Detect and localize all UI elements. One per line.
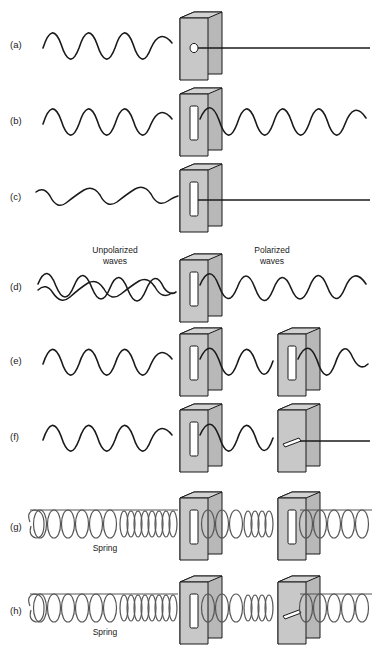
panel-f-label: (f) xyxy=(10,431,19,442)
spring-label-h: Spring xyxy=(93,627,118,637)
barrier-vertical-slit xyxy=(180,88,222,156)
barrier-vertical-slit xyxy=(180,254,222,322)
unpolarized-label-line1: Unpolarized xyxy=(92,245,138,255)
panel-a-label: (a) xyxy=(10,39,22,50)
polarization-figure: (a) (b) (c) Unpolarized xyxy=(0,0,380,653)
panel-c-label: (c) xyxy=(10,191,21,202)
barrier-vertical-slit-second xyxy=(278,328,320,396)
barrier-round-hole xyxy=(180,12,222,80)
panel-h-label: (h) xyxy=(10,605,22,616)
spring-label-g: Spring xyxy=(93,543,118,553)
panel-d-label: (d) xyxy=(10,281,22,292)
panel-g-label: (g) xyxy=(10,521,22,532)
barrier-horizontal-slit xyxy=(278,404,320,472)
barrier-vertical-slit xyxy=(180,404,222,472)
panel-b-label: (b) xyxy=(10,115,22,126)
barrier-vertical-slit xyxy=(180,164,222,232)
barrier-vertical-slit-first xyxy=(180,328,222,396)
figure-canvas: (a) (b) (c) Unpolarized xyxy=(0,0,380,653)
polarized-label-line1: Polarized xyxy=(254,245,290,255)
polarized-label-line2: waves xyxy=(259,256,284,266)
unpolarized-label-line2: waves xyxy=(102,256,127,266)
panel-e-label: (e) xyxy=(10,355,22,366)
